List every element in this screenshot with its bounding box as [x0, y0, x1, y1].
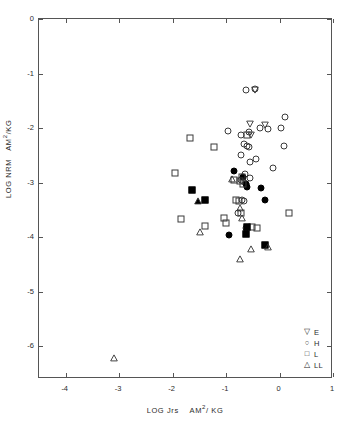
data-point-l-filled [242, 231, 249, 238]
data-point-l [186, 134, 193, 141]
data-point-h [246, 144, 253, 151]
legend-label: E [314, 328, 319, 337]
data-point-l [240, 181, 247, 188]
data-point-h-filled [261, 196, 268, 203]
x-tick [66, 373, 67, 377]
data-point-e [246, 120, 253, 127]
legend: ▽E○H□L△LL [302, 327, 323, 371]
data-point-l [285, 210, 292, 217]
y-axis-title-exponent: 2 [2, 134, 8, 138]
y-tick-label: 0 [12, 14, 34, 23]
legend-item-h: ○H [302, 338, 323, 349]
scatter-figure: (a) Chondrites LOG NRM AM2/KG LOG Jrs AM… [0, 0, 345, 426]
x-tick-top [280, 19, 281, 23]
data-point-l [210, 144, 217, 151]
legend-label: H [314, 339, 320, 348]
plot-area [39, 19, 331, 377]
data-point-ll-filled [195, 197, 202, 204]
y-tick [39, 19, 43, 20]
data-point-l [243, 131, 250, 138]
square-open-icon: □ [302, 349, 312, 360]
x-axis-title-unit: AM [190, 406, 202, 415]
data-point-ll [110, 355, 117, 362]
x-tick [333, 373, 334, 377]
data-point-ll [228, 176, 235, 183]
x-tick [119, 373, 120, 377]
x-tick-label: -3 [108, 384, 128, 393]
y-tick-label: -5 [12, 286, 34, 295]
legend-item-ll: △LL [302, 360, 323, 371]
data-point-h [257, 124, 264, 131]
x-axis-title-unit-tail: / KG [206, 406, 223, 415]
y-tick-right [327, 74, 331, 75]
data-point-h [277, 125, 284, 132]
x-tick-label: -4 [55, 384, 75, 393]
x-tick [226, 373, 227, 377]
x-tick-top [226, 19, 227, 23]
data-point-h [243, 87, 250, 94]
legend-item-l: □L [302, 349, 323, 360]
data-point-l [178, 216, 185, 223]
data-point-h [281, 143, 288, 150]
data-point-h [246, 159, 253, 166]
legend-item-e: ▽E [302, 327, 323, 338]
circle-open-icon: ○ [302, 338, 312, 349]
x-tick-label: 0 [269, 384, 289, 393]
data-point-l-filled [244, 224, 251, 231]
y-tick-right [327, 292, 331, 293]
data-point-ll [239, 214, 246, 221]
data-point-ll [197, 228, 204, 235]
data-point-ll [236, 205, 243, 212]
y-tick [39, 292, 43, 293]
y-tick-right [327, 183, 331, 184]
x-tick-top [333, 19, 334, 23]
x-tick-top [173, 19, 174, 23]
y-tick-label: -6 [12, 341, 34, 350]
triangle-down-open-icon: ▽ [302, 327, 312, 338]
y-tick [39, 346, 43, 347]
data-point-ll [265, 244, 272, 251]
y-tick [39, 237, 43, 238]
x-tick-label: -2 [162, 384, 182, 393]
x-tick-label: 1 [322, 384, 342, 393]
data-point-h [282, 114, 289, 121]
data-point-h [264, 126, 271, 133]
data-point-h-filled [230, 168, 237, 175]
y-tick-label: -3 [12, 177, 34, 186]
plot-frame: ▽E○H□L△LL [38, 18, 332, 378]
y-tick-label: -4 [12, 232, 34, 241]
x-tick-top [66, 19, 67, 23]
data-point-l [223, 220, 230, 227]
y-tick [39, 183, 43, 184]
data-point-ll [248, 246, 255, 253]
data-point-h [253, 156, 260, 163]
data-point-h-filled [258, 185, 265, 192]
legend-label: LL [314, 361, 323, 370]
y-tick-label: -2 [12, 123, 34, 132]
data-point-h [238, 152, 245, 159]
y-tick-right [327, 128, 331, 129]
x-axis-title: LOG Jrs AM2/ KG [38, 404, 332, 415]
data-point-l [253, 224, 260, 231]
y-tick-right [327, 237, 331, 238]
y-axis-title: LOG NRM AM2/KG [2, 120, 13, 198]
data-point-l [235, 198, 242, 205]
y-tick-right [327, 19, 331, 20]
data-point-l [172, 169, 179, 176]
legend-label: L [314, 350, 318, 359]
y-tick-right [327, 346, 331, 347]
x-tick-label: -1 [215, 384, 235, 393]
x-tick [173, 373, 174, 377]
data-point-l-filled [189, 186, 196, 193]
y-tick-label: -1 [12, 68, 34, 77]
data-point-h-filled [225, 232, 232, 239]
y-axis-title-unit: AM [4, 138, 13, 150]
x-tick [280, 373, 281, 377]
x-tick-top [119, 19, 120, 23]
data-point-h [252, 86, 259, 93]
y-tick [39, 128, 43, 129]
triangle-up-open-icon: △ [302, 360, 312, 371]
data-point-h [270, 164, 277, 171]
x-axis-title-jrs: LOG Jrs [147, 406, 179, 415]
data-point-ll [236, 256, 243, 263]
